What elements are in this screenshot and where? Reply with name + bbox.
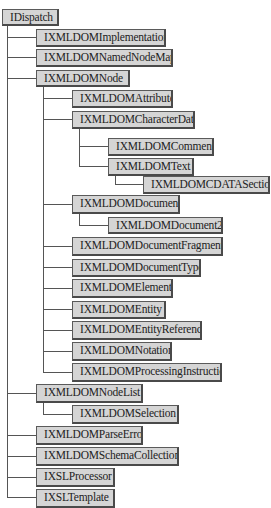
connector-h <box>7 477 36 478</box>
node-label: IXMLDOMImplementation <box>44 31 166 43</box>
connector-h <box>7 57 36 58</box>
node-ixmldomcomment: IXMLDOMComment <box>108 138 214 156</box>
connector-h <box>7 78 36 79</box>
node-ixmldomelement: IXMLDOMElement <box>72 279 173 298</box>
node-label: IXMLDOMParseError <box>44 428 143 440</box>
node-ixmldomdocumentfragment: IXMLDOMDocumentFragment <box>72 237 223 256</box>
node-label: IXMLDOMText <box>116 160 190 172</box>
node-ixslprocessor: IXSLProcessor <box>36 468 115 487</box>
connector-h <box>7 393 36 394</box>
node-label: IXMLDOMComment <box>116 140 214 152</box>
node-ixmldomdocument2: IXMLDOMDocument2 <box>108 217 223 234</box>
connector-h <box>79 146 108 147</box>
node-label: IXSLTemplate <box>44 491 109 503</box>
node-label: IXMLDOMProcessingInstruction <box>80 365 222 377</box>
node-label: IXMLDOMDocumentType <box>80 261 201 273</box>
connector-h <box>79 166 108 167</box>
node-label: IXMLDOMNode <box>44 72 123 84</box>
connector-h <box>43 330 72 331</box>
node-label: IXMLDOMNodeList <box>44 386 140 398</box>
node-ixsltemplate: IXSLTemplate <box>36 489 115 508</box>
connector-h <box>7 497 36 498</box>
node-label: IXMLDOMCharacterData <box>80 113 195 125</box>
node-ixmldomprocessinginstruction: IXMLDOMProcessingInstruction <box>72 363 222 382</box>
node-label: IDispatch <box>10 11 53 23</box>
node-ixmldomdocumenttype: IXMLDOMDocumentType <box>72 259 201 277</box>
connector-characterdata-vertical <box>79 128 80 167</box>
connector-h <box>43 98 72 99</box>
node-label: IXMLDOMCDATASection <box>151 178 270 190</box>
connector-h <box>43 414 72 415</box>
node-ixmldomtext: IXMLDOMText <box>108 158 194 176</box>
node-ixmldomnodelist: IXMLDOMNodeList <box>36 384 143 403</box>
connector-h <box>7 435 36 436</box>
node-label: IXMLDOMNamedNodeMap <box>44 51 173 63</box>
node-ixmldomentity: IXMLDOMEntity <box>72 301 166 319</box>
node-ixmldomselection: IXMLDOMSelection <box>72 405 179 424</box>
node-label: IXMLDOMSchemaCollection <box>44 449 179 461</box>
node-ixmldomparseerror: IXMLDOMParseError <box>36 426 143 445</box>
node-label: IXMLDOMSelection <box>80 407 176 419</box>
node-ixmldomentityreference: IXMLDOMEntityReference <box>72 321 202 340</box>
node-label: IXMLDOMDocument <box>80 197 180 209</box>
node-label: IXMLDOMEntityReference <box>80 323 202 335</box>
connector-h <box>43 246 72 247</box>
node-ixmldomschemacollection: IXMLDOMSchemaCollection <box>36 447 179 466</box>
node-label: IXMLDOMDocument2 <box>116 219 223 231</box>
connector-h <box>43 288 72 289</box>
node-ixmldomcharacterdata: IXMLDOMCharacterData <box>72 111 195 129</box>
connector-h <box>43 351 72 352</box>
node-ixmldomattribute: IXMLDOMAttribute <box>72 90 173 108</box>
connector-h <box>43 372 72 373</box>
connector-h <box>7 456 36 457</box>
node-idispatch: IDispatch <box>2 9 59 26</box>
connector-root-vertical <box>7 25 8 498</box>
node-ixmldomnotation: IXMLDOMNotation <box>72 342 172 361</box>
connector-h <box>115 184 143 185</box>
node-label: IXMLDOMDocumentFragment <box>80 239 223 251</box>
connector-h <box>79 225 108 226</box>
connector-h <box>43 309 72 310</box>
node-ixmldomnode: IXMLDOMNode <box>36 70 130 87</box>
node-label: IXMLDOMElement <box>80 281 172 293</box>
node-ixmldomimplementation: IXMLDOMImplementation <box>36 29 166 47</box>
node-ixmldomnamednodemap: IXMLDOMNamedNodeMap <box>36 49 173 67</box>
connector-h <box>43 204 72 205</box>
connector-h <box>43 119 72 120</box>
node-ixmldomdocument: IXMLDOMDocument <box>72 195 180 214</box>
node-label: IXMLDOMNotation <box>80 344 172 356</box>
connector-h <box>7 37 36 38</box>
node-label: IXMLDOMEntity <box>80 303 162 315</box>
connector-h <box>43 267 72 268</box>
node-label: IXSLProcessor <box>44 470 112 482</box>
node-ixmldomcdatasection: IXMLDOMCDATASection <box>143 176 270 194</box>
node-label: IXMLDOMAttribute <box>80 92 173 104</box>
